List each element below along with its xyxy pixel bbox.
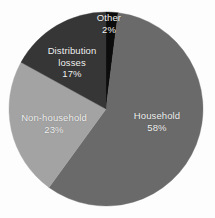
pie-label-distribution-losses: Distribution losses 17% (32, 45, 112, 80)
pie-label-distribution-losses-name-line1: Distribution (32, 45, 112, 57)
pie-label-household: Household 58% (120, 110, 194, 133)
pie-label-nonhousehold-value: 23% (8, 124, 100, 136)
pie-label-other: Other 2% (84, 12, 134, 35)
pie-slices (9, 12, 203, 206)
pie-label-distribution-losses-value: 17% (32, 68, 112, 80)
pie-label-other-name: Other (84, 12, 134, 24)
pie-label-other-value: 2% (84, 24, 134, 36)
pie-label-nonhousehold: Non-household 23% (8, 112, 100, 135)
pie-label-nonhousehold-name: Non-household (8, 112, 100, 124)
pie-chart: Household 58% Non-household 23% Distribu… (0, 0, 215, 218)
pie-label-distribution-losses-name-line2: losses (32, 57, 112, 69)
pie-label-household-name: Household (120, 110, 194, 122)
pie-label-household-value: 58% (120, 122, 194, 134)
